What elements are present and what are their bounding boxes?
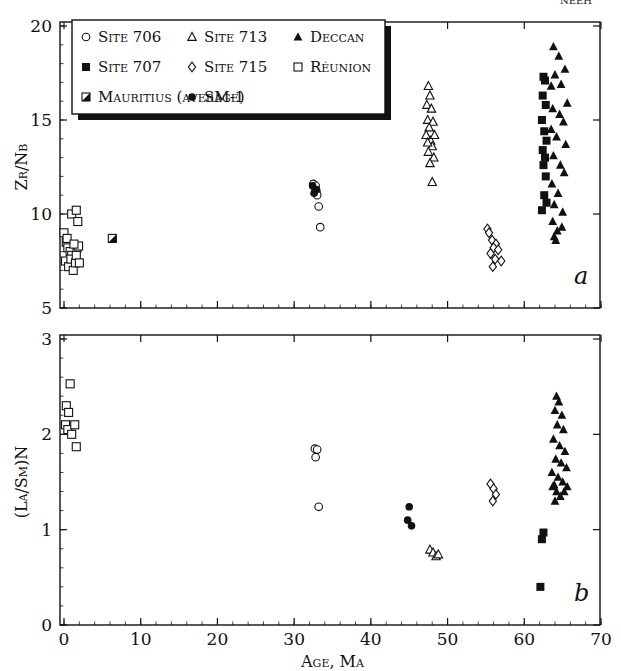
y-tick-label: 20 xyxy=(30,16,52,36)
panel-b: 0123010203040506070(La/Sm)NAge, Mab xyxy=(12,329,612,671)
series-mauritius-average- xyxy=(108,234,116,242)
y-axis: 0123 xyxy=(41,329,600,635)
legend-entry: Deccan xyxy=(310,28,365,46)
legend: Site 706Site 713DeccanSite 707Site 715Ré… xyxy=(72,20,391,120)
y-tick-label: 3 xyxy=(41,329,52,349)
y-axis-label: Zr/Nb xyxy=(12,144,31,191)
series-r-union xyxy=(60,206,83,274)
legend-entry: Site 707 xyxy=(98,58,161,76)
series-site-707 xyxy=(538,73,551,214)
y-tick-label: 10 xyxy=(30,204,52,224)
series-site-706 xyxy=(311,445,322,511)
x-tick-label: 60 xyxy=(513,629,535,649)
series-sm-1 xyxy=(404,503,415,530)
legend-entry: Site 706 xyxy=(98,28,161,46)
corner-text: NEEH xyxy=(560,0,592,6)
plot-frame xyxy=(60,335,600,625)
series-r-union xyxy=(62,380,81,451)
x-tick-label: 50 xyxy=(437,629,459,649)
x-tick-label: 10 xyxy=(130,629,152,649)
x-axis: 010203040506070 xyxy=(59,335,612,649)
x-tick-label: 20 xyxy=(207,629,229,649)
legend-entry: SM-1 xyxy=(204,88,244,106)
series-deccan xyxy=(548,391,572,504)
y-tick-label: 1 xyxy=(41,520,52,540)
panel-a: 5101520Zr/NbaSite 706Site 713DeccanSite … xyxy=(12,16,601,318)
figure: 5101520Zr/NbaSite 706Site 713DeccanSite … xyxy=(0,0,621,671)
x-tick-label: 30 xyxy=(283,629,305,649)
y-tick-label: 15 xyxy=(30,110,52,130)
x-tick-label: 70 xyxy=(590,629,612,649)
series-site-715 xyxy=(484,224,505,271)
x-tick-label: 40 xyxy=(360,629,382,649)
y-tick-label: 2 xyxy=(41,424,52,444)
legend-entry: Réunion xyxy=(310,58,372,76)
y-tick-label: 0 xyxy=(41,615,52,635)
series-site-707 xyxy=(536,529,547,591)
legend-entry: Site 715 xyxy=(204,58,267,76)
series-site-715 xyxy=(487,479,500,506)
x-tick-label: 0 xyxy=(59,629,70,649)
legend-entry: Site 713 xyxy=(204,28,267,46)
series-site-713 xyxy=(422,82,439,186)
panel-letter: b xyxy=(574,579,589,607)
x-axis-label: Age, Ma xyxy=(300,652,365,671)
y-axis-label: (La/Sm)N xyxy=(12,446,31,519)
y-tick-label: 5 xyxy=(41,298,52,318)
panel-letter: a xyxy=(574,262,588,290)
series-site-713 xyxy=(426,545,443,560)
